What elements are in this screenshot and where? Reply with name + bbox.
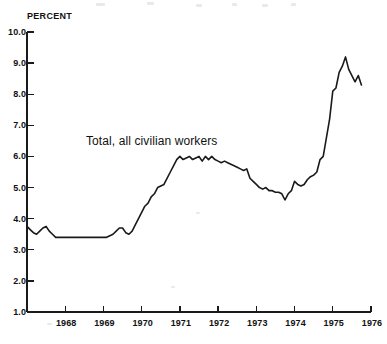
y-axis-tick-label: 4.0 xyxy=(0,214,26,224)
y-axis-tick-label: 8.0 xyxy=(0,89,26,99)
data-series-line xyxy=(27,57,361,237)
x-axis-tick-label: 1973 xyxy=(237,318,277,328)
y-axis-ticks xyxy=(27,32,34,312)
x-axis-tick-label: 1968 xyxy=(46,318,86,328)
y-axis-tick-label: 9.0 xyxy=(0,58,26,68)
x-axis-tick-label: 1976 xyxy=(352,318,387,328)
axis-lines xyxy=(27,32,371,312)
x-axis-tick-label: 1975 xyxy=(314,318,354,328)
x-axis-tick-label: 1972 xyxy=(199,318,239,328)
x-axis-tick-label: 1974 xyxy=(276,318,316,328)
y-axis-tick-label: 10.0 xyxy=(0,27,26,37)
x-axis-tick-label: 1969 xyxy=(84,318,124,328)
y-axis-tick-label: 1.0 xyxy=(0,307,26,317)
y-axis-tick-label: 2.0 xyxy=(0,276,26,286)
y-axis-tick-label: 6.0 xyxy=(0,151,26,161)
x-axis-ticks xyxy=(65,306,371,312)
y-axis-tick-label: 7.0 xyxy=(0,120,26,130)
x-axis-tick-label: 1970 xyxy=(123,318,163,328)
x-axis-tick-label: 1971 xyxy=(161,318,201,328)
y-axis-tick-label: 5.0 xyxy=(0,183,26,193)
y-axis-tick-label: 3.0 xyxy=(0,245,26,255)
